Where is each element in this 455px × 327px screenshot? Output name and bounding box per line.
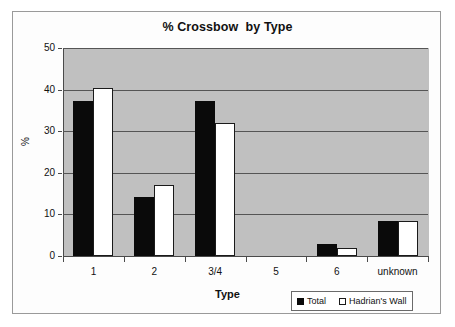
bar-hadrians-wall [93,88,113,256]
bar-total [134,197,154,256]
chart-title: % Crossbow by Type [0,20,455,34]
y-axis-tick-label: 20 [21,168,55,178]
x-axis-tick-label: unknown [366,266,430,277]
y-axis-tick-label: 40 [21,85,55,95]
gridline [63,48,428,49]
gridline [63,173,428,174]
y-axis-tick-mark [58,173,62,174]
bar-total [73,101,93,256]
x-axis-tick-label: 6 [305,266,369,277]
y-axis-tick-label: 50 [21,43,55,53]
y-axis-title: % [20,137,31,146]
legend-label-total: Total [307,296,326,306]
x-axis-tick-mark [124,257,125,262]
legend-label-hadrians-wall: Hadrian's Wall [349,296,406,306]
legend-item-total: Total [297,296,326,306]
bar-hadrians-wall [398,221,418,256]
bar-total [195,101,215,256]
gridline [63,131,428,132]
x-axis-tick-label: 2 [122,266,186,277]
x-axis-tick-mark [367,257,368,262]
bar-total [317,244,337,256]
x-axis-tick-mark [306,257,307,262]
chart-figure: % Crossbow by Type % 01020304050 123/456… [0,0,455,327]
bar-hadrians-wall [337,248,357,256]
x-axis-tick-mark [63,257,64,262]
x-axis-tick-mark [246,257,247,262]
bar-total [378,221,398,256]
x-axis-tick-label: 1 [61,266,125,277]
legend-item-hadrians-wall: Hadrian's Wall [339,296,406,306]
y-axis-tick-mark [58,90,62,91]
bar-hadrians-wall [215,123,235,256]
legend-swatch-total-icon [297,298,304,305]
y-axis-tick-mark [58,214,62,215]
y-axis-tick-label: 30 [21,126,55,136]
plot-area [63,48,429,257]
x-axis-tick-label: 5 [244,266,308,277]
gridline [63,214,428,215]
bar-hadrians-wall [154,185,174,256]
y-axis-tick-mark [58,131,62,132]
x-axis-tick-label: 3/4 [183,266,247,277]
y-axis-tick-mark [58,48,62,49]
chart-legend: Total Hadrian's Wall [291,291,413,311]
gridline [63,90,428,91]
x-axis-tick-mark [185,257,186,262]
y-axis-tick-label: 0 [21,251,55,261]
y-axis-tick-mark [58,256,62,257]
x-axis-tick-mark [428,257,429,262]
y-axis-tick-label: 10 [21,209,55,219]
legend-swatch-hadrians-wall-icon [339,298,346,305]
